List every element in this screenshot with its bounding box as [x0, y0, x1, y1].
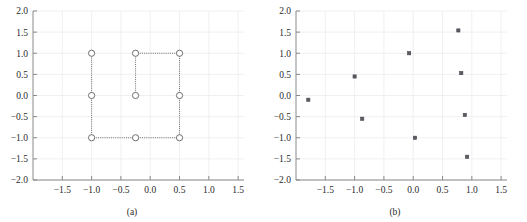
data-point: [353, 75, 356, 78]
data-point: [176, 92, 182, 98]
data-point: [132, 135, 138, 141]
x-tick-label: 0.5: [174, 185, 186, 195]
y-tick-label: 2.0: [279, 6, 291, 16]
data-point: [361, 117, 364, 120]
y-tick-label: 0.0: [16, 91, 28, 101]
y-tick-label: −1.0: [11, 133, 28, 143]
x-tick-label: 1.5: [495, 185, 507, 195]
y-tick-label: −0.5: [274, 112, 291, 122]
x-tick-label: 0.5: [437, 185, 449, 195]
x-tick-label: −0.5: [112, 185, 129, 195]
y-tick-label: 1.0: [16, 49, 28, 59]
x-tick-label: −1.5: [317, 185, 334, 195]
data-point: [176, 135, 182, 141]
y-tick-label: −1.5: [274, 154, 291, 164]
y-tick-label: 1.0: [279, 49, 291, 59]
panel-a-ticklabels: −1.5−1.0−0.50.00.51.01.5−2.0−1.5−1.0−0.5…: [11, 6, 245, 195]
data-point: [460, 72, 463, 75]
panel-a-caption: (a): [127, 207, 138, 218]
data-point: [466, 155, 469, 158]
y-tick-label: −2.0: [11, 175, 28, 185]
data-point: [307, 98, 310, 101]
y-tick-label: 1.5: [16, 28, 28, 38]
panel-b-plot: −1.5−1.0−0.50.00.51.01.5−2.0−1.5−1.0−0.5…: [263, 0, 527, 222]
y-tick-label: 1.5: [279, 28, 291, 38]
data-point: [89, 135, 95, 141]
y-tick-label: 0.5: [279, 70, 291, 80]
figure-container: −1.5−1.0−0.50.00.51.01.5−2.0−1.5−1.0−0.5…: [0, 0, 527, 222]
y-tick-label: −1.0: [274, 133, 291, 143]
x-tick-label: 0.0: [407, 185, 419, 195]
x-tick-label: −1.0: [83, 185, 100, 195]
y-tick-label: −1.5: [11, 154, 28, 164]
data-point: [89, 50, 95, 56]
panel-b: −1.5−1.0−0.50.00.51.01.5−2.0−1.5−1.0−0.5…: [263, 0, 527, 222]
data-point: [176, 50, 182, 56]
data-point: [457, 29, 460, 32]
data-point: [408, 52, 411, 55]
y-tick-label: −2.0: [274, 175, 291, 185]
y-tick-label: 2.0: [16, 6, 28, 16]
data-point: [132, 92, 138, 98]
data-point: [89, 92, 95, 98]
x-tick-label: 0.0: [144, 185, 156, 195]
x-tick-label: −0.5: [375, 185, 392, 195]
x-tick-label: 1.5: [232, 185, 244, 195]
x-tick-label: 1.0: [466, 185, 478, 195]
data-point: [413, 136, 416, 139]
x-tick-label: 1.0: [203, 185, 215, 195]
data-point: [132, 50, 138, 56]
x-tick-label: −1.5: [54, 185, 71, 195]
x-tick-label: −1.0: [346, 185, 363, 195]
panel-a-plot: −1.5−1.0−0.50.00.51.01.5−2.0−1.5−1.0−0.5…: [0, 0, 264, 222]
panel-a: −1.5−1.0−0.50.00.51.01.5−2.0−1.5−1.0−0.5…: [0, 0, 264, 222]
y-tick-label: 0.0: [279, 91, 291, 101]
y-tick-label: 0.5: [16, 70, 28, 80]
data-point: [463, 113, 466, 116]
panel-b-caption: (b): [389, 207, 400, 218]
panel-b-datapoints: [307, 29, 469, 159]
panel-b-gridlines: [296, 11, 507, 180]
y-tick-label: −0.5: [11, 112, 28, 122]
